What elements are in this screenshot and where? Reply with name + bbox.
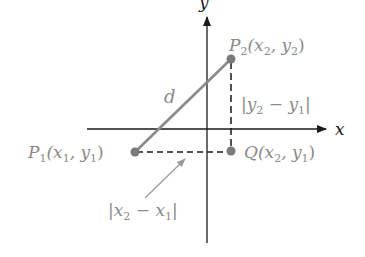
vleg-open: |y bbox=[241, 94, 257, 114]
point-p2-label: P2(x2, y2) bbox=[228, 35, 305, 58]
hleg-minus: − x bbox=[130, 200, 165, 220]
horizontal-leg-label: |x2 − x1| bbox=[108, 200, 178, 223]
vertical-leg-label: |y2 − y1| bbox=[241, 94, 311, 117]
vleg-b-sub: 1 bbox=[298, 104, 305, 117]
hleg-open: |x bbox=[108, 200, 124, 220]
p2-sep: , y bbox=[271, 35, 292, 55]
point-p2 bbox=[227, 55, 236, 64]
vleg-a-sub: 2 bbox=[256, 104, 263, 117]
p2-close: ) bbox=[298, 35, 305, 55]
p1-y-sub: 1 bbox=[90, 152, 97, 165]
p2-sub: 2 bbox=[240, 45, 247, 58]
p1-sep: , y bbox=[70, 142, 91, 162]
p1-sub: 1 bbox=[39, 152, 46, 165]
hleg-close: | bbox=[172, 200, 178, 220]
q-y-sub: 1 bbox=[302, 152, 309, 165]
point-p1 bbox=[131, 148, 140, 157]
hleg-a-sub: 2 bbox=[123, 210, 130, 223]
q-x-sub: 2 bbox=[274, 152, 281, 165]
vleg-close: | bbox=[305, 94, 311, 114]
horizontal-leg-pointer-arrow bbox=[145, 159, 185, 198]
p2-open: (x bbox=[247, 35, 264, 55]
y-axis-label: y bbox=[198, 0, 209, 12]
q-close: ) bbox=[309, 142, 316, 162]
p1-name: P bbox=[27, 142, 40, 162]
p2-y-sub: 2 bbox=[291, 45, 298, 58]
point-q-label: Q(x2, y1) bbox=[244, 142, 315, 165]
q-name: Q bbox=[244, 142, 258, 162]
q-open: (x bbox=[258, 142, 275, 162]
point-p1-label: P1(x1, y1) bbox=[27, 142, 104, 165]
distance-formula-diagram: x y d P2(x2, y2) |y2 − y1| P1(x1, y1) Q(… bbox=[0, 0, 365, 257]
p2-x-sub: 2 bbox=[264, 45, 271, 58]
vleg-minus: − y bbox=[263, 94, 298, 114]
distance-label-d: d bbox=[164, 86, 176, 107]
hleg-b-sub: 1 bbox=[165, 210, 172, 223]
x-axis-label: x bbox=[335, 119, 345, 139]
p1-x-sub: 1 bbox=[63, 152, 70, 165]
p1-open: (x bbox=[46, 142, 63, 162]
p1-close: ) bbox=[97, 142, 104, 162]
point-q bbox=[227, 147, 236, 156]
p2-name: P bbox=[228, 35, 241, 55]
distance-segment-d bbox=[135, 59, 231, 152]
q-sep: , y bbox=[281, 142, 302, 162]
